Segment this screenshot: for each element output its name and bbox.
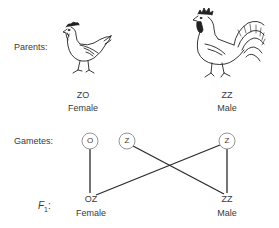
hen-genotype: ZO xyxy=(77,90,90,100)
rooster-genotype: ZZ xyxy=(222,90,233,100)
parents-label: Parents: xyxy=(14,42,48,52)
line-z-to-zz xyxy=(133,146,224,194)
hen-sex: Female xyxy=(68,103,98,113)
cross-lines xyxy=(90,145,227,195)
offspring-male-sex: Male xyxy=(217,208,237,218)
rooster-icon xyxy=(193,8,265,77)
hen-icon xyxy=(63,22,111,73)
gametes-label: Gametes: xyxy=(14,136,53,146)
line-z-to-oz xyxy=(96,145,220,195)
offspring-female-genotype: OZ xyxy=(85,194,98,204)
cross-diagram xyxy=(0,0,279,228)
offspring-male-genotype: ZZ xyxy=(222,194,233,204)
rooster-sex: Male xyxy=(217,103,237,113)
gamete-z-rooster: Z xyxy=(225,136,230,145)
gamete-circles xyxy=(82,133,235,149)
gamete-o: O xyxy=(87,136,93,145)
f1-colon: : xyxy=(48,200,51,211)
gamete-z-hen: Z xyxy=(125,136,130,145)
f1-label: F1: xyxy=(38,200,51,213)
offspring-female-sex: Female xyxy=(76,208,106,218)
